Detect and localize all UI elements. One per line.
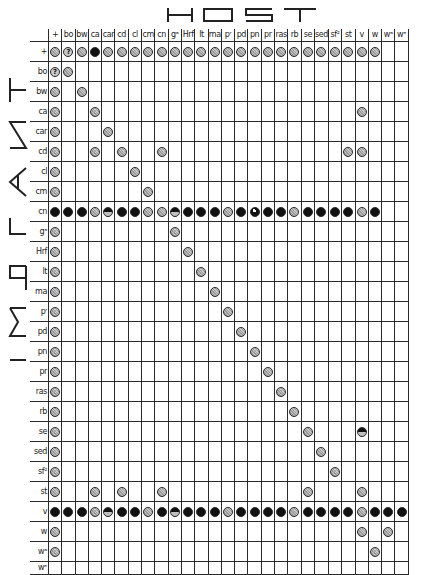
column-header: pr [261,29,274,41]
grey-circle-icon [343,147,353,157]
grey-circle-icon [183,47,193,57]
matrix-cell [49,241,62,261]
grey-circle-icon [223,207,233,217]
matrix-cell [75,141,88,161]
matrix-cell [102,401,115,421]
matrix-cell [221,341,234,361]
matrix-cell [115,301,128,321]
matrix-cell [275,561,288,574]
matrix-cell [382,481,395,501]
matrix-cell [275,101,288,121]
matrix-cell [168,281,181,301]
matrix-cell [88,381,101,401]
matrix-cell [261,41,274,61]
matrix-cell [208,541,221,561]
matrix-cell [288,41,301,61]
matrix-cell [368,41,381,61]
row-header: pn [30,341,49,361]
matrix-cell [128,421,141,441]
matrix-cell [355,561,368,574]
matrix-cell [248,321,261,341]
matrix-cell [248,301,261,321]
matrix-cell [208,481,221,501]
matrix-cell [235,541,248,561]
matrix-cell [342,461,355,481]
matrix-cell [142,261,155,281]
matrix-cell [102,181,115,201]
matrix-cell [261,281,274,301]
matrix-cell [142,461,155,481]
matrix-cell [395,61,408,81]
matrix-cell [155,101,168,121]
row-header: st [30,481,49,501]
matrix-cell [261,241,274,261]
matrix-cell [342,561,355,574]
matrix-cell [342,541,355,561]
matrix-cell [115,81,128,101]
matrix-row: ras [30,381,408,401]
matrix-row: v [30,501,408,521]
matrix-cell [88,301,101,321]
matrix-cell [221,281,234,301]
matrix-cell [88,461,101,481]
matrix-cell [314,301,328,321]
matrix-cell [235,561,248,574]
matrix-cell [355,221,368,241]
column-header: st [342,29,355,41]
grey-circle-icon [77,47,87,57]
matrix-cell [62,81,75,101]
matrix-cell [288,301,301,321]
matrix-cell [235,401,248,421]
matrix-cell [314,421,328,441]
grey-circle-icon [50,227,60,237]
matrix-cell [288,121,301,141]
matrix-cell [128,81,141,101]
matrix-cell [301,301,314,321]
matrix-cell [301,341,314,361]
matrix-cell [208,561,221,574]
grey-circle-icon [289,407,299,417]
grey-circle-icon [50,107,60,117]
matrix-cell [328,121,341,141]
matrix-cell [49,161,62,181]
column-header: Hrf [181,29,194,41]
host-implant-matrix: +bobwcacarcdclcmcngᵃHrfltmapʳpdpnprrasrb… [30,29,409,575]
matrix-cell [208,221,221,241]
matrix-cell [395,541,408,561]
grey-circle-icon [370,547,380,557]
matrix-cell [49,521,62,541]
matrix-cell [288,401,301,421]
matrix-cell [155,461,168,481]
black-circle-icon [303,207,313,217]
matrix-cell [115,281,128,301]
matrix-cell [275,201,288,221]
matrix-cell [314,321,328,341]
matrix-cell [328,321,341,341]
matrix-cell [168,61,181,81]
grey-circle-icon [117,487,127,497]
row-header: rb [30,401,49,421]
matrix-cell [208,381,221,401]
matrix-cell [221,181,234,201]
grey-circle-icon [370,47,380,57]
matrix-cell [75,461,88,481]
grey-circle-icon [357,527,367,537]
matrix-cell [115,321,128,341]
matrix-cell [49,361,62,381]
matrix-cell [181,341,194,361]
matrix-cell [142,541,155,561]
grey-circle-icon [50,527,60,537]
grey-circle-icon [50,467,60,477]
matrix-cell [382,521,395,541]
matrix-cell [248,281,261,301]
matrix-cell [49,221,62,241]
matrix-cell [248,141,261,161]
matrix-cell [195,401,208,421]
matrix-cell [181,521,194,541]
matrix-cell [102,121,115,141]
matrix-cell [142,121,155,141]
matrix-cell [221,421,234,441]
matrix-cell [382,401,395,421]
matrix-cell [208,61,221,81]
matrix-cell [248,401,261,421]
